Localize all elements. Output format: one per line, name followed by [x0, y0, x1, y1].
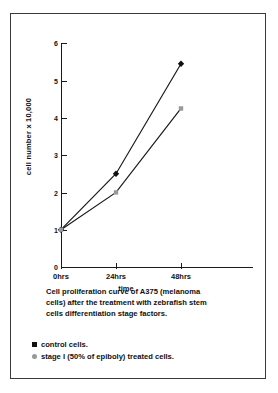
caption-line-1: Cell proliferation curve of A375 (melano… — [46, 286, 251, 297]
legend-swatch-control — [32, 342, 37, 347]
data-point-1-2 — [179, 106, 183, 110]
chart-plot-area: cell number x 10,000 0 1 2 3 4 5 6 0hrs … — [11, 14, 267, 264]
chart-series-layer — [11, 14, 267, 270]
x-tick-label-48hrs: 48hrs — [161, 272, 201, 281]
legend-item-control: control cells. — [32, 339, 257, 350]
x-tick-label-24hrs: 24hrs — [96, 272, 136, 281]
caption-line-3: cells differentiation stage factors. — [46, 308, 251, 319]
legend-swatch-stage-i — [32, 354, 37, 359]
x-tick-label-0hrs: 0hrs — [41, 272, 81, 281]
data-point-1-0 — [59, 228, 63, 232]
series-line-0 — [61, 64, 181, 230]
legend-label-control: control cells. — [41, 340, 88, 349]
legend-label-stage-i: stage I (50% of epiboly) treated cells. — [41, 352, 174, 361]
chart-legend: control cells. stage I (50% of epiboly) … — [32, 339, 257, 363]
legend-item-stage-i: stage I (50% of epiboly) treated cells. — [32, 351, 257, 362]
data-point-1-1 — [114, 190, 118, 194]
figure-page: cell number x 10,000 0 1 2 3 4 5 6 0hrs … — [0, 0, 278, 393]
data-point-0-2 — [178, 61, 184, 67]
figure-frame: cell number x 10,000 0 1 2 3 4 5 6 0hrs … — [10, 13, 266, 379]
caption-line-2: cells) after the treatment with zebrafis… — [46, 297, 251, 308]
figure-caption: Cell proliferation curve of A375 (melano… — [46, 286, 251, 320]
